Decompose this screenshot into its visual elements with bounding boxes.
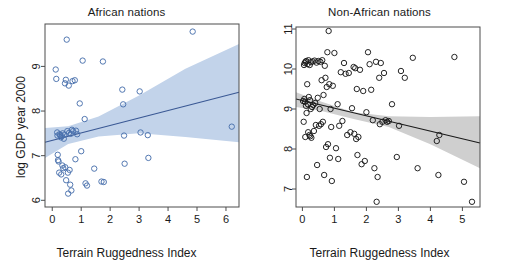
panel-african-nations: African nations Terrain Ruggedness Index… [0,0,253,264]
svg-text:6: 6 [223,213,229,225]
svg-text:9: 9 [31,63,43,69]
svg-text:5: 5 [459,213,465,225]
svg-text:2: 2 [363,213,369,225]
svg-text:0: 0 [299,213,305,225]
scatter-plot-non-african: 0123457891011 [253,0,506,264]
svg-text:3: 3 [395,213,401,225]
scatter-plot-african: 01234566789 [0,0,253,264]
svg-text:4: 4 [165,213,171,225]
svg-text:1: 1 [331,213,337,225]
svg-text:2: 2 [107,213,113,225]
svg-text:10: 10 [282,63,294,75]
svg-text:0: 0 [49,213,55,225]
svg-text:7: 7 [282,186,294,192]
svg-text:8: 8 [31,108,43,114]
svg-text:1: 1 [78,213,84,225]
panel-non-african-nations: Non-African nations Terrain Ruggedness I… [253,0,506,264]
svg-text:9: 9 [282,106,294,112]
svg-text:11: 11 [282,23,294,34]
svg-text:7: 7 [31,153,43,159]
svg-text:8: 8 [282,146,294,152]
svg-text:4: 4 [427,213,433,225]
svg-text:5: 5 [194,213,200,225]
svg-text:3: 3 [136,213,142,225]
svg-text:6: 6 [31,197,43,203]
figure-canvas: African nations Terrain Ruggedness Index… [0,0,506,264]
